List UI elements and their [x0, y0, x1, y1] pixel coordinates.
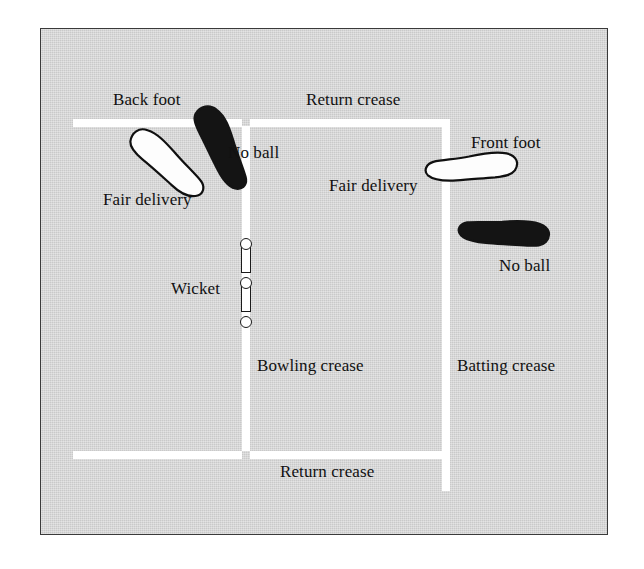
label-wicket: Wicket	[171, 280, 220, 297]
stump-3	[240, 316, 252, 328]
return-crease-bottom-right-segment	[250, 451, 442, 459]
label-front-foot: Front foot	[471, 134, 540, 151]
front-foot-no-ball-footprint	[452, 200, 559, 265]
return-crease-bottom-left-segment	[73, 451, 242, 459]
wicket-group	[240, 238, 252, 329]
label-no-ball-left: No ball	[228, 144, 279, 161]
label-fair-delivery-right: Fair delivery	[329, 177, 418, 194]
return-crease-top-right-segment	[250, 119, 442, 127]
label-back-foot: Back foot	[113, 91, 180, 108]
label-batting-crease: Batting crease	[457, 357, 555, 374]
label-fair-delivery-left: Fair delivery	[103, 191, 192, 208]
stump-2	[240, 277, 252, 289]
label-no-ball-right: No ball	[499, 257, 550, 274]
stump-1	[240, 238, 252, 250]
label-bowling-crease: Bowling crease	[257, 357, 364, 374]
label-return-crease-bottom: Return crease	[280, 463, 374, 480]
pitch-panel: Back foot Return crease No ball Fair del…	[40, 28, 608, 535]
cricket-crease-diagram: Back foot Return crease No ball Fair del…	[0, 0, 644, 569]
label-return-crease-top: Return crease	[306, 91, 400, 108]
